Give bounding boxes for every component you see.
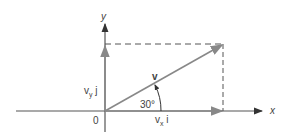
vy-label: vy j [84,86,98,98]
y-axis-label: y [101,12,106,22]
vector-diagram [0,0,290,136]
vector-v [105,45,222,111]
vx-label: vx i [155,115,169,127]
x-axis-label: x [270,106,275,116]
angle-label: 30° [140,100,155,110]
vector-label: v [152,72,158,82]
angle-arc [155,85,161,111]
origin-label: 0 [93,116,99,126]
